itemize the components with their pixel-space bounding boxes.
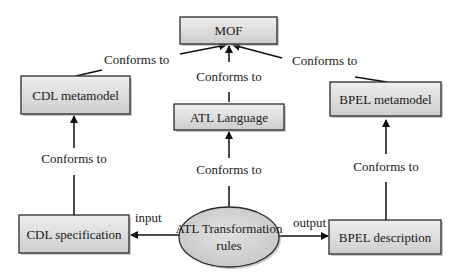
node-bpel-description[interactable]: BPEL description bbox=[329, 220, 443, 256]
node-bpel-metamodel[interactable]: BPEL metamodel bbox=[330, 82, 443, 118]
node-cdl-specification[interactable]: CDL specification bbox=[19, 215, 131, 255]
node-label: CDL specification bbox=[26, 227, 122, 242]
node-atl-transformation-rules[interactable]: ATL Transformation rules bbox=[176, 207, 283, 269]
edge-cdl-spec-to-cdl-metamodel: Conforms to bbox=[41, 116, 106, 215]
edge-output: output bbox=[279, 215, 328, 236]
node-label-line1: ATL Transformation bbox=[176, 221, 283, 236]
edge-label: output bbox=[293, 215, 327, 230]
arrow-icon bbox=[180, 45, 226, 54]
node-label: BPEL metamodel bbox=[339, 92, 432, 107]
arrow-icon bbox=[233, 45, 282, 58]
edge-input: input bbox=[131, 210, 179, 235]
edge-label: Conforms to bbox=[41, 151, 106, 166]
edge-label: input bbox=[135, 210, 162, 225]
node-label: MOF bbox=[214, 23, 242, 38]
edge-label: Conforms to bbox=[353, 159, 418, 174]
edge-line bbox=[355, 77, 387, 82]
node-mof[interactable]: MOF bbox=[180, 17, 279, 46]
node-cdl-metamodel[interactable]: CDL metamodel bbox=[21, 76, 132, 116]
node-label-line2: rules bbox=[216, 238, 241, 253]
edge-label: Conforms to bbox=[292, 53, 357, 68]
edge-bpel-desc-to-bpel-metamodel: Conforms to bbox=[353, 120, 418, 220]
node-atl-language[interactable]: ATL Language bbox=[174, 104, 286, 132]
edge-line bbox=[76, 70, 102, 76]
atl-rules-ellipse bbox=[179, 207, 279, 267]
node-label: CDL metamodel bbox=[32, 88, 119, 103]
node-label: ATL Language bbox=[190, 110, 268, 125]
edge-atl-rules-to-atl-language: Conforms to bbox=[196, 132, 261, 207]
edge-label: Conforms to bbox=[196, 162, 261, 177]
edge-label: Conforms to bbox=[104, 52, 169, 67]
node-label: BPEL description bbox=[339, 230, 432, 245]
edge-label: Conforms to bbox=[196, 69, 261, 84]
edge-atl-language-to-mof: Conforms to bbox=[196, 46, 261, 102]
diagram-canvas: Conforms to Conforms to Conforms to Conf… bbox=[0, 0, 459, 278]
